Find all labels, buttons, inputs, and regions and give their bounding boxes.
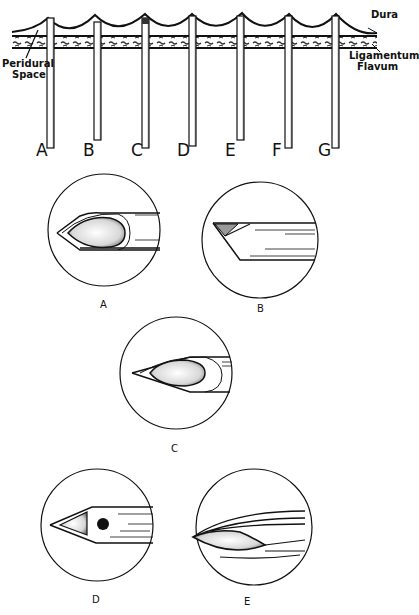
tip-label-b: B [257, 303, 264, 314]
needle-label-d: D [177, 140, 190, 160]
needle-e [237, 16, 244, 140]
peridural-label-line1: Peridural [2, 58, 54, 69]
tip-label-c: C [171, 443, 178, 454]
needle-b [94, 22, 101, 140]
peridural-space-label: Peridural Space [2, 58, 54, 80]
needle-label-g: G [318, 140, 331, 160]
ligamentum-label-line2: Flavum [349, 61, 419, 72]
needle-a [47, 18, 54, 148]
needle-label-e: E [225, 140, 236, 160]
tip-detail-d [41, 469, 153, 581]
tip-detail-e [193, 469, 312, 585]
needle-c [142, 18, 149, 148]
tip-detail-b [202, 182, 318, 298]
tip-label-a: A [100, 299, 107, 310]
needle-d [189, 16, 196, 146]
needle-f [285, 16, 292, 148]
tip-label-d: D [92, 594, 100, 605]
tip-label-e: E [244, 596, 250, 607]
dura-label: Dura [371, 9, 398, 20]
tip-detail-a [48, 174, 160, 286]
peridural-label-line2: Space [2, 69, 54, 80]
needle-label-f: F [272, 140, 282, 160]
needle-label-a: A [36, 140, 48, 160]
dura-pointer [368, 28, 377, 33]
ligamentum-flavum-label: Ligamentum Flavum [349, 50, 419, 72]
needle-g [332, 16, 339, 148]
needle-label-c: C [131, 140, 143, 160]
ligamentum-label-line1: Ligamentum [349, 50, 419, 61]
tip-detail-c [120, 317, 232, 429]
needle-label-b: B [83, 140, 95, 160]
